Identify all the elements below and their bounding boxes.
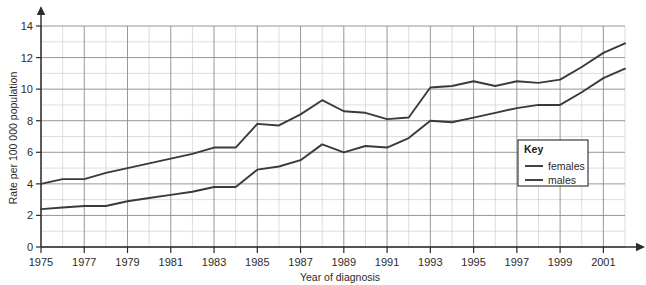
- x-axis-label: Year of diagnosis: [300, 271, 380, 283]
- x-tick-label: 1999: [548, 256, 572, 268]
- line-chart: 02468101214 1975197719791981198319851987…: [0, 0, 646, 285]
- x-tick-label: 1995: [461, 256, 485, 268]
- x-tick-label: 2001: [591, 256, 615, 268]
- y-tick-label: 14: [21, 20, 33, 32]
- y-tick-label: 0: [27, 241, 33, 253]
- legend-label-males: males: [548, 174, 576, 186]
- x-tick-label: 1985: [245, 256, 269, 268]
- x-tick-label: 1981: [159, 256, 183, 268]
- x-tick-label: 1997: [505, 256, 529, 268]
- y-tick-label: 12: [21, 52, 33, 64]
- legend-title: Key: [524, 143, 543, 155]
- x-tick-label: 1975: [29, 256, 53, 268]
- x-tick-label: 1983: [202, 256, 226, 268]
- y-tick-label: 10: [21, 83, 33, 95]
- y-tick-label: 2: [27, 209, 33, 221]
- chart-legend: Key females males: [518, 140, 588, 186]
- x-tick-label: 1993: [418, 256, 442, 268]
- chart-canvas: 02468101214 1975197719791981198319851987…: [0, 0, 646, 285]
- x-tick-label: 1991: [375, 256, 399, 268]
- x-tick-label: 1977: [72, 256, 96, 268]
- y-tick-label: 4: [27, 178, 33, 190]
- y-axis-label: Rate per 100 000 population: [7, 72, 19, 205]
- y-tick-label: 6: [27, 146, 33, 158]
- x-tick-label: 1979: [115, 256, 139, 268]
- legend-label-females: females: [548, 160, 585, 172]
- x-tick-label: 1989: [332, 256, 356, 268]
- y-tick-label: 8: [27, 115, 33, 127]
- x-tick-label: 1987: [288, 256, 312, 268]
